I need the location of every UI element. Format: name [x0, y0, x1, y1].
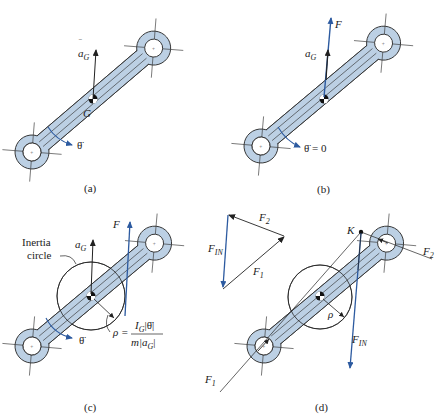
- triangle-f2-label: F2: [258, 211, 270, 226]
- panel-caption: (d): [315, 401, 328, 414]
- connecting-rod: [234, 214, 416, 376]
- center-label: G: [83, 107, 91, 119]
- force-polygon: F2 F1 FIN: [207, 211, 284, 289]
- triangle-fin-label: FIN: [207, 242, 223, 257]
- radius-arrow: [94, 299, 114, 318]
- point-k-label: K: [346, 224, 355, 236]
- rho-label: ρ =: [112, 326, 128, 338]
- panel-a: aG ‾ G θ̈ (a): [2, 18, 183, 195]
- connecting-rod-dynamics-figure: × × aG ‾ G: [0, 0, 445, 420]
- svg-text:IG|θ̈|: IG|θ̈|: [134, 319, 154, 334]
- svg-text:m|aG|: m|aG|: [131, 336, 155, 351]
- triangle-fin-arrow: [223, 215, 228, 287]
- triangle-f1-arrow: [223, 237, 284, 289]
- fin-label: FIN: [351, 333, 367, 348]
- panel-caption: (b): [317, 183, 330, 196]
- panel-caption: (c): [84, 401, 97, 414]
- panel-b: F aG θ̈ = 0 (b): [231, 14, 413, 196]
- force-label: F: [112, 218, 120, 230]
- angular-accel-label: θ̈ = 0: [304, 142, 327, 154]
- rho-formula: IG|θ̈| m|aG|: [131, 319, 163, 351]
- inertia-circle-label-2: circle: [27, 249, 52, 261]
- inertia-circle-label: Inertia: [22, 236, 51, 248]
- panel-c: aG F Inertia circle θ̈ ρ = IG|θ̈| m|aG| …: [2, 214, 184, 414]
- f1-line: [220, 232, 361, 392]
- accel-label: aG: [75, 238, 87, 253]
- accel-label: aG: [305, 47, 317, 62]
- f1-label: F1: [204, 373, 216, 388]
- accel-label: aG: [78, 47, 90, 62]
- panel-caption: (a): [84, 182, 97, 195]
- panel-d: F2 F1 FIN K ρ F2 FIN F1 (d): [204, 211, 434, 414]
- rho-label: ρ: [327, 308, 333, 320]
- triangle-f2-arrow: [229, 215, 284, 236]
- radius-arrow: [323, 299, 344, 317]
- force-label: F: [334, 18, 342, 30]
- angular-accel-label: θ̈: [77, 139, 84, 151]
- angular-accel-label: θ̈: [79, 334, 86, 346]
- triangle-f1-label: F1: [252, 265, 264, 280]
- svg-text:‾: ‾: [78, 39, 82, 48]
